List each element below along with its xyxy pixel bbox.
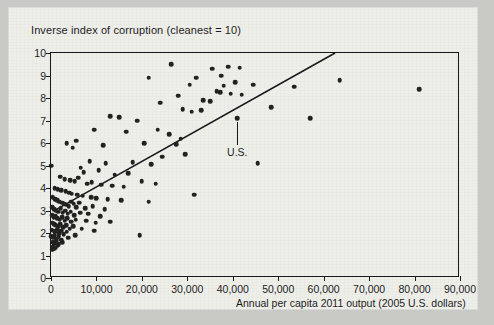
scatter-point	[201, 98, 206, 103]
scatter-point	[121, 185, 126, 190]
x-tick-label: 60,000	[308, 283, 340, 295]
y-tick-mark	[46, 233, 51, 234]
scatter-point	[124, 129, 129, 134]
scatter-point	[146, 199, 151, 204]
scatter-point	[76, 176, 81, 181]
scatter-point	[337, 78, 342, 83]
annotation-leader-line	[237, 122, 238, 145]
scatter-point	[74, 205, 79, 210]
scatter-point	[187, 82, 192, 87]
scatter-point	[93, 221, 98, 226]
scatter-point	[146, 75, 151, 80]
scatter-point	[155, 127, 160, 132]
scatter-point	[308, 116, 313, 121]
x-tick-label: 30,000	[171, 283, 203, 295]
x-tick-mark	[369, 276, 370, 281]
y-tick-mark	[46, 188, 51, 189]
x-tick-label: 40,000	[217, 283, 249, 295]
scatter-point	[192, 192, 197, 197]
scatter-point	[255, 161, 260, 166]
scatter-point	[219, 73, 224, 78]
scatter-point	[84, 218, 89, 223]
y-tick-label: 7	[40, 115, 46, 127]
scatter-point	[108, 219, 113, 224]
scatter-point	[66, 204, 71, 209]
scatter-point	[269, 105, 274, 110]
scatter-point	[218, 90, 223, 95]
scatter-point	[65, 141, 70, 146]
scatter-point	[75, 192, 80, 197]
scatter-point	[237, 65, 242, 70]
scatter-point	[62, 177, 67, 182]
y-tick-mark	[46, 166, 51, 167]
scatter-point	[417, 87, 422, 92]
scatter-point	[90, 180, 95, 185]
scatter-point	[78, 210, 83, 215]
y-tick-label: 9	[40, 70, 46, 82]
x-tick-mark	[187, 276, 188, 281]
scatter-point	[83, 206, 88, 211]
scatter-point	[208, 99, 213, 104]
plot-area: 012345678910 010,00020,00030,00040,00050…	[50, 52, 459, 277]
scatter-point	[91, 204, 96, 209]
y-tick-label: 6	[40, 137, 46, 149]
scatter-point	[142, 141, 147, 146]
scatter-point	[81, 194, 86, 199]
scatter-point	[73, 217, 78, 222]
scatter-point	[160, 154, 165, 159]
scatter-point	[117, 115, 122, 120]
x-tick-mark	[278, 276, 279, 281]
x-tick-mark	[51, 276, 52, 281]
scatter-point	[112, 172, 117, 177]
y-tick-label: 2	[40, 227, 46, 239]
x-tick-label: 0	[48, 283, 54, 295]
scatter-point	[92, 127, 97, 132]
y-tick-mark	[46, 53, 51, 54]
scatter-point	[71, 145, 76, 150]
scatter-point	[210, 66, 215, 71]
scatter-point	[233, 80, 238, 85]
scatter-point	[94, 196, 99, 201]
scatter-point	[98, 214, 103, 219]
scatter-point	[73, 233, 78, 238]
y-tick-label: 10	[34, 47, 46, 59]
scatter-point	[81, 170, 86, 175]
x-tick-label: 50,000	[262, 283, 294, 295]
x-tick-label: 20,000	[126, 283, 158, 295]
scatter-point	[140, 179, 145, 184]
x-tick-label: 70,000	[353, 283, 385, 295]
scatter-point	[99, 182, 104, 187]
scatter-point	[183, 152, 188, 157]
scatter-point	[135, 118, 140, 123]
scatter-point	[194, 75, 199, 80]
scatter-point	[169, 62, 174, 67]
scatter-point	[60, 240, 65, 245]
x-tick-mark	[142, 276, 143, 281]
scatter-point	[176, 93, 181, 98]
scatter-point	[180, 107, 185, 112]
scanned-page: Inverse index of corruption (cleanest = …	[8, 7, 478, 310]
scatter-point	[108, 114, 113, 119]
y-tick-mark	[46, 98, 51, 99]
scatter-point	[167, 132, 172, 137]
x-axis-label: Annual per capita 2011 output (2005 U.S.…	[236, 297, 466, 309]
y-tick-mark	[46, 211, 51, 212]
scatter-point	[65, 230, 70, 235]
y-tick-label: 5	[40, 160, 46, 172]
scatter-point	[178, 136, 183, 141]
scatter-point	[251, 82, 256, 87]
x-tick-mark	[415, 276, 416, 281]
scatter-point	[240, 92, 245, 97]
scatter-point	[106, 197, 111, 202]
scatter-point	[96, 168, 101, 173]
scatter-point	[158, 100, 163, 105]
scatter-point	[80, 226, 85, 231]
scatter-point	[149, 162, 154, 167]
scatter-point	[137, 233, 142, 238]
scatter-point	[228, 91, 233, 96]
x-tick-mark	[460, 276, 461, 281]
scatter-point	[74, 138, 79, 143]
scatter-point	[126, 171, 131, 176]
annotation-us-label: U.S.	[227, 146, 247, 158]
scatter-point	[174, 142, 179, 147]
